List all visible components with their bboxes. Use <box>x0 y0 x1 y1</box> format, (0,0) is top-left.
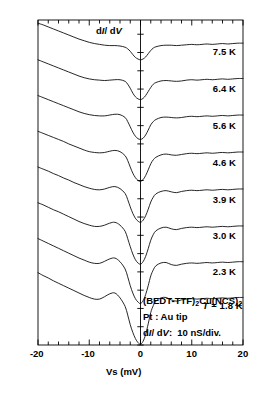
temp-label-5-6-k: 5.6 K <box>213 121 236 131</box>
annotation-scale: dI/ dV: 10 nS/div. <box>143 328 221 338</box>
x-tick-0: 0 <box>138 349 143 359</box>
temp-label-3-9-k: 3.9 K <box>213 195 236 205</box>
x-tick-20: 20 <box>238 349 249 359</box>
x-tick-neg20: -20 <box>30 349 44 359</box>
temp-label-7-5-k: 7.5 K <box>213 47 236 57</box>
x-axis-title: Vs (mV) <box>106 367 141 377</box>
temp-label-4-6-k: 4.6 K <box>213 158 236 168</box>
temp-label-6-4-k: 6.4 K <box>213 84 236 94</box>
x-tick-10: 10 <box>186 349 197 359</box>
x-tick-neg10: -10 <box>81 349 95 359</box>
figure-panel: dI/ dV 7.5 K6.4 K5.6 K4.6 K3.9 K3.0 K2.3… <box>0 0 270 398</box>
annotation-sample: (BEDT-TTF)2Cu(NCS)2 <box>143 296 242 307</box>
annotation-tip: Pt : Au tip <box>143 312 188 322</box>
temp-label-2-3-k: 2.3 K <box>213 267 236 277</box>
didv-axis-label: dI/ dV <box>96 26 122 36</box>
temp-label-3-0-k: 3.0 K <box>213 231 236 241</box>
